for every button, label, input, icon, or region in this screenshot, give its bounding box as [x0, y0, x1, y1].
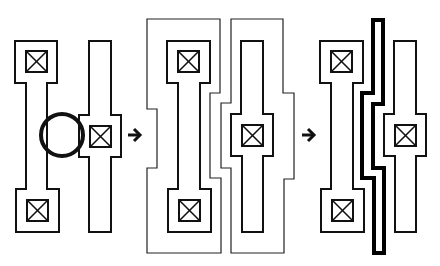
contact-icon: [178, 51, 199, 72]
contact-icon: [27, 200, 48, 221]
diagram-canvas: [0, 0, 440, 266]
contact-icon: [90, 126, 111, 147]
contact-icon: [332, 200, 353, 221]
contact-icon: [395, 125, 416, 146]
contact-icon: [242, 125, 263, 146]
contact-icon: [179, 200, 200, 221]
arrow-right-icon: [302, 129, 314, 141]
contact-icon: [331, 51, 352, 72]
panel-regions: [147, 19, 294, 253]
contact-icon: [26, 51, 47, 72]
panel-before: [15, 41, 121, 232]
arrow-right-icon: [128, 129, 140, 141]
panel-after: [320, 20, 426, 253]
thick-separator-wire: [362, 20, 384, 253]
